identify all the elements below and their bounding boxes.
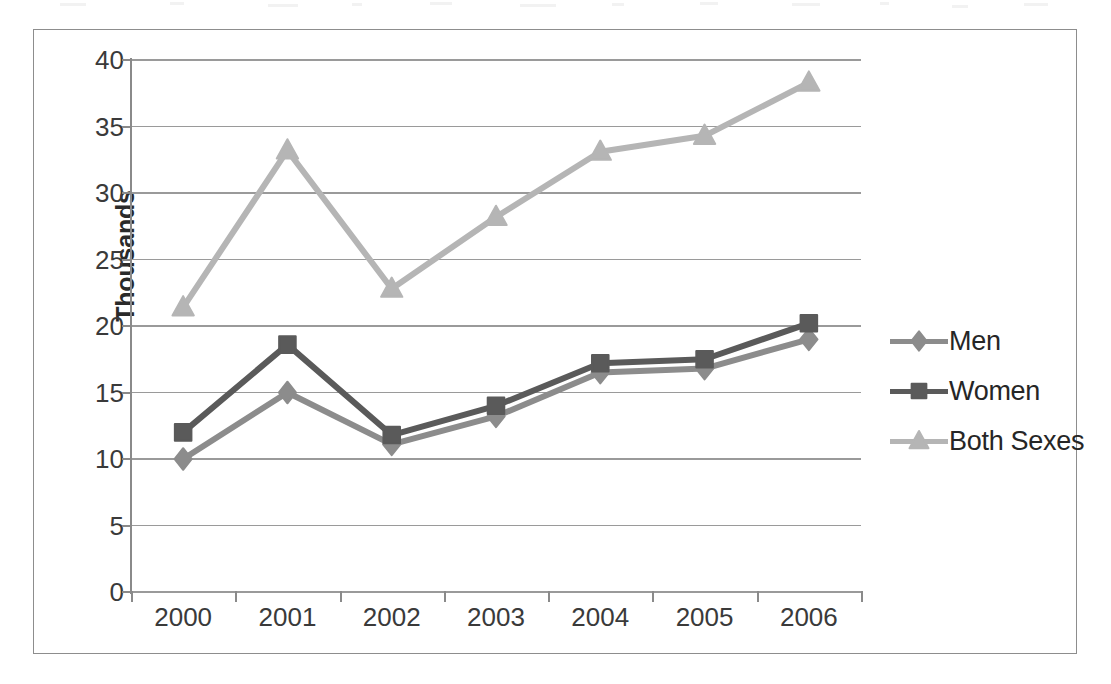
- legend-item-men[interactable]: Men: [890, 316, 1075, 366]
- x-axis-tick-label: 2001: [227, 602, 347, 633]
- y-axis-tickmark: [122, 392, 132, 394]
- data-point-marker: [279, 336, 296, 353]
- legend-swatch-diamond-icon: [890, 330, 948, 352]
- x-axis-tickmark: [340, 591, 342, 602]
- data-point-marker: [488, 398, 505, 415]
- legend-swatch-triangle-icon: [890, 430, 948, 452]
- y-axis-tick-label: 35: [62, 114, 124, 140]
- legend-item-both-sexes[interactable]: Both Sexes: [890, 416, 1075, 466]
- x-axis-tickmark: [548, 591, 550, 602]
- y-axis-tick-label: 0: [62, 579, 124, 605]
- legend-label: Both Sexes: [949, 426, 1084, 457]
- chart-legend: MenWomenBoth Sexes: [890, 316, 1075, 466]
- data-point-marker: [279, 382, 296, 404]
- scan-fleck: [880, 2, 889, 5]
- scan-fleck: [430, 2, 452, 5]
- scan-fleck: [60, 3, 86, 6]
- series-lines: [131, 60, 861, 592]
- scan-fleck: [170, 2, 184, 5]
- data-point-marker: [175, 448, 192, 470]
- y-axis-tick-label: 10: [62, 446, 124, 472]
- x-axis-tickmark: [444, 591, 446, 602]
- y-axis-tickmark: [122, 59, 132, 61]
- x-axis-tick-label: 2005: [645, 602, 765, 633]
- data-point-marker: [277, 139, 298, 158]
- y-axis-tick-label: 20: [62, 313, 124, 339]
- y-axis-tickmark: [122, 192, 132, 194]
- y-axis-tick-labels: 0510152025303540: [54, 30, 124, 655]
- y-axis-tickmark: [122, 126, 132, 128]
- data-point-marker: [798, 71, 819, 90]
- x-axis-tickmark: [131, 591, 133, 602]
- y-axis-tick-label: 30: [62, 180, 124, 206]
- legend-marker-square-icon: [905, 377, 933, 405]
- scan-fleck: [352, 3, 362, 6]
- data-point-marker: [696, 351, 713, 368]
- x-axis-tickmark: [757, 591, 759, 602]
- y-axis-tickmark: [122, 325, 132, 327]
- scan-fleck: [792, 3, 820, 6]
- scan-artifact-strip: [0, 0, 1111, 18]
- y-axis-tickmark: [122, 458, 132, 460]
- scan-fleck: [612, 3, 624, 6]
- legend-item-women[interactable]: Women: [890, 366, 1075, 416]
- y-axis-tickmark: [122, 525, 132, 527]
- data-point-marker: [383, 427, 400, 444]
- scan-fleck: [952, 5, 968, 8]
- y-axis-tick-label: 25: [62, 247, 124, 273]
- x-axis-tickmark: [235, 591, 237, 602]
- series-both-sexes: [172, 71, 819, 315]
- legend-label: Men: [949, 326, 1001, 357]
- legend-label: Women: [949, 376, 1040, 407]
- y-axis-tick-label: 40: [62, 47, 124, 73]
- x-axis-tick-label: 2000: [123, 602, 243, 633]
- y-axis-tick-label: 5: [62, 513, 124, 539]
- scan-fleck: [268, 4, 298, 7]
- chart-plot-wrapper: Thousands 0510152025303540 2000200120022…: [34, 30, 1078, 655]
- series-line: [183, 83, 809, 308]
- x-axis-tick-label: 2004: [540, 602, 660, 633]
- chart-frame: Thousands 0510152025303540 2000200120022…: [33, 29, 1077, 654]
- legend-marker-diamond-icon: [905, 327, 933, 355]
- y-axis-tickmark: [122, 259, 132, 261]
- data-point-marker: [175, 424, 192, 441]
- scan-fleck: [700, 2, 718, 5]
- data-point-marker: [592, 355, 609, 372]
- x-axis-tick-labels: 2000200120022003200420052006: [131, 602, 861, 646]
- y-axis-tick-label: 15: [62, 380, 124, 406]
- plot-area: [131, 60, 861, 592]
- legend-swatch-square-icon: [890, 380, 948, 402]
- x-axis-tickmark: [861, 591, 863, 602]
- legend-marker-triangle-icon: [905, 427, 933, 455]
- x-axis-tickmark: [652, 591, 654, 602]
- data-point-marker: [801, 315, 818, 332]
- x-axis-tick-label: 2002: [332, 602, 452, 633]
- x-axis-tick-label: 2003: [436, 602, 556, 633]
- scan-fleck: [520, 4, 556, 7]
- x-axis-tick-label: 2006: [749, 602, 869, 633]
- scan-fleck: [1024, 3, 1048, 6]
